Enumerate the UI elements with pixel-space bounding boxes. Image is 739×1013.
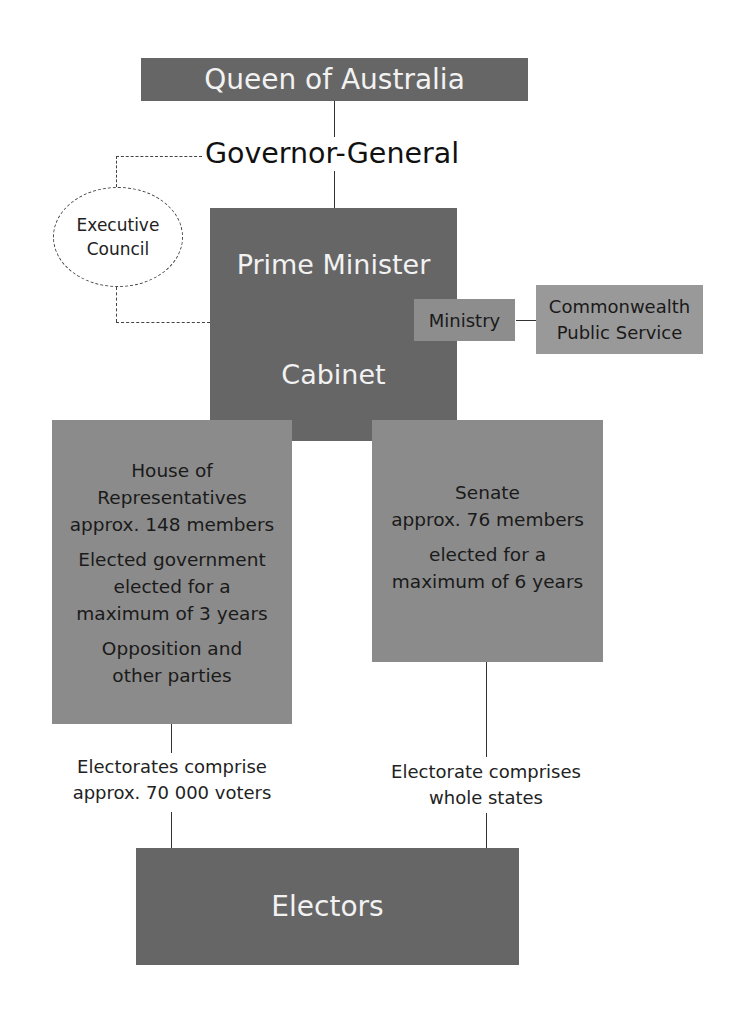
executive-council-node: Executive Council xyxy=(53,187,183,287)
senate-electorates-line2: whole states xyxy=(374,785,598,811)
senate-electorates-annotation: Electorate comprises whole states xyxy=(374,759,598,811)
connector-house-annotation xyxy=(171,724,172,753)
connector-gg-pm xyxy=(334,171,335,208)
senate-members: approx. 76 members xyxy=(391,506,584,533)
connector-annotation-electors-right xyxy=(486,813,487,848)
house-members: approx. 148 members xyxy=(70,511,274,538)
queen-label: Queen of Australia xyxy=(204,63,465,96)
house-government-line1: Elected government xyxy=(78,546,265,573)
senate-node: Senate approx. 76 members elected for a … xyxy=(372,420,603,662)
queen-node: Queen of Australia xyxy=(141,58,528,101)
house-opposition-line1: Opposition and xyxy=(102,635,242,662)
senate-electorates-line1: Electorate comprises xyxy=(374,759,598,785)
house-electorates-line2: approx. 70 000 voters xyxy=(40,780,304,806)
house-government-line2: elected for a xyxy=(114,573,231,600)
connector-annotation-electors-left xyxy=(171,812,172,848)
senate-term-line2: maximum of 6 years xyxy=(392,568,583,595)
house-title-line1: House of xyxy=(131,457,213,484)
house-electorates-annotation: Electorates comprise approx. 70 000 vote… xyxy=(40,754,304,806)
ministry-node: Ministry xyxy=(414,299,515,341)
dashed-connector-council-pm xyxy=(116,322,210,323)
senate-term-line1: elected for a xyxy=(429,541,546,568)
house-government-line3: maximum of 3 years xyxy=(76,600,267,627)
dashed-connector-gg-council xyxy=(116,156,202,157)
executive-council-line2: Council xyxy=(87,237,150,261)
governor-general-label: Governor-General xyxy=(205,137,459,170)
senate-title: Senate xyxy=(455,479,520,506)
public-service-line2: Public Service xyxy=(557,320,683,346)
house-electorates-line1: Electorates comprise xyxy=(40,754,304,780)
public-service-line1: Commonwealth xyxy=(549,294,690,320)
prime-minister-label: Prime Minister xyxy=(210,248,457,282)
house-title-line2: Representatives xyxy=(97,484,246,511)
connector-queen-gg xyxy=(334,101,335,137)
house-opposition-line2: other parties xyxy=(112,662,231,689)
ministry-label: Ministry xyxy=(429,310,500,331)
electors-label: Electors xyxy=(271,890,383,923)
house-of-representatives-node: House of Representatives approx. 148 mem… xyxy=(52,420,292,724)
public-service-node: Commonwealth Public Service xyxy=(536,285,703,354)
connector-senate-annotation xyxy=(486,662,487,757)
electors-node: Electors xyxy=(136,848,519,965)
cabinet-label: Cabinet xyxy=(210,358,457,392)
executive-council-line1: Executive xyxy=(77,213,160,237)
connector-ministry-public-service xyxy=(516,320,536,321)
governor-general-node: Governor-General xyxy=(204,136,460,172)
dashed-connector-council-pm-vertical xyxy=(116,287,117,322)
dashed-connector-gg-council-vertical xyxy=(116,156,117,187)
